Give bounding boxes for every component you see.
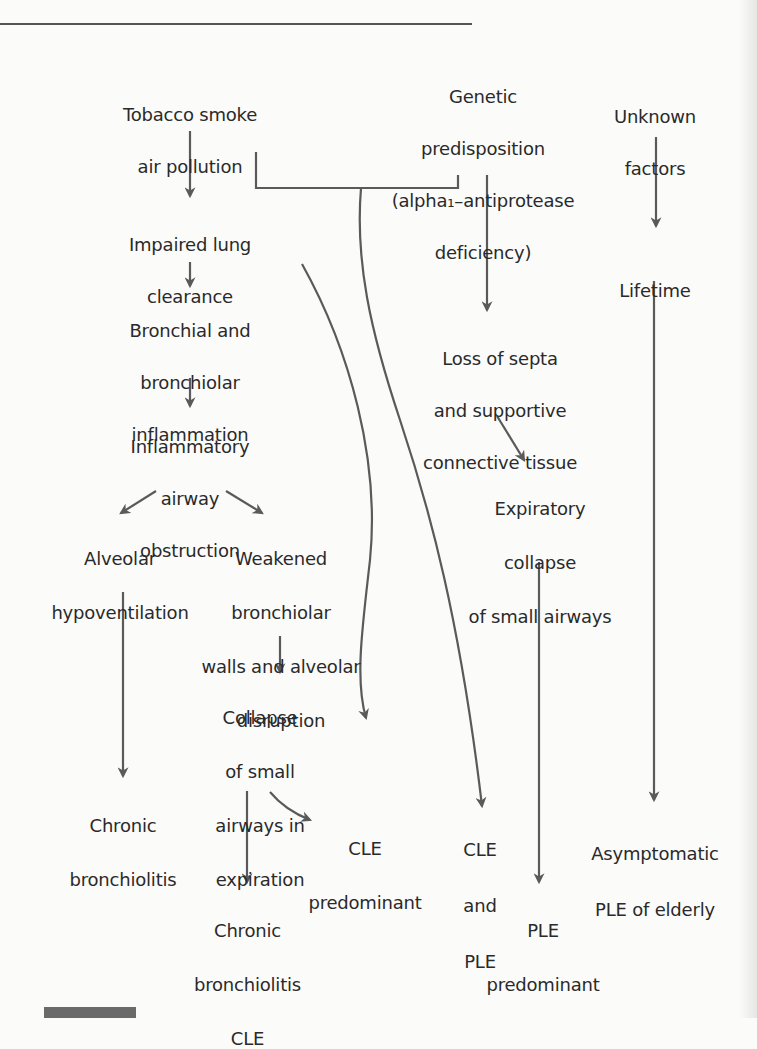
node-line: Tobacco smoke (110, 102, 270, 128)
node-line: Weakened (186, 545, 376, 572)
node-line: of small (195, 758, 325, 785)
node-expiratory-collapse: Expiratory collapse of small airways (450, 468, 630, 657)
footer-bar (44, 1007, 136, 1018)
node-lifetime: Lifetime (600, 252, 710, 330)
node-line: Unknown (600, 104, 710, 130)
node-genetic-predisposition: Genetic predisposition (alpha₁–antiprote… (378, 58, 588, 292)
node-line: bronchiolitis (175, 971, 320, 998)
node-line: CLE (300, 835, 430, 862)
node-line: airway (110, 486, 270, 512)
node-line: and supportive (400, 398, 600, 424)
node-line: (alpha₁–antiprotease (378, 188, 588, 214)
node-line: deficiency) (378, 240, 588, 266)
page-edge-shadow (739, 0, 757, 1018)
node-line: Impaired lung (110, 232, 270, 258)
node-line: predominant (478, 971, 608, 998)
node-line: predisposition (378, 136, 588, 162)
node-line: Genetic (378, 84, 588, 110)
node-alveolar-hypoventilation: Alveolar hypoventilation (40, 518, 200, 653)
node-line: factors (600, 156, 710, 182)
node-line: Inflammatory (110, 434, 270, 460)
node-line: Chronic (48, 812, 198, 839)
node-ple-predominant: PLE predominant (478, 890, 608, 1025)
node-line: air pollution (110, 154, 270, 180)
node-tobacco-smoke: Tobacco smoke air pollution (110, 76, 270, 206)
node-line: bronchiolar (110, 370, 270, 396)
node-line: walls and alveolar (186, 653, 376, 680)
node-line: Lifetime (600, 278, 710, 304)
node-line: CLE (175, 1025, 320, 1049)
node-line: hypoventilation (40, 599, 200, 626)
node-line: Collapse (195, 704, 325, 731)
node-line: bronchiolitis (48, 866, 198, 893)
node-line: PLE (478, 917, 608, 944)
node-line: bronchiolar (186, 599, 376, 626)
node-line: CLE (445, 836, 515, 864)
node-line: Bronchial and (110, 318, 270, 344)
node-line: collapse (450, 549, 630, 576)
node-line: Expiratory (450, 495, 630, 522)
node-line: Loss of septa (400, 346, 600, 372)
node-unknown-factors: Unknown factors (600, 78, 710, 208)
node-line: Chronic (175, 917, 320, 944)
node-line: Alveolar (40, 545, 200, 572)
node-chronic-bronchiolitis-cle: Chronic bronchiolitis CLE (175, 890, 320, 1049)
node-line: Asymptomatic (570, 840, 740, 868)
node-line: of small airways (450, 603, 630, 630)
